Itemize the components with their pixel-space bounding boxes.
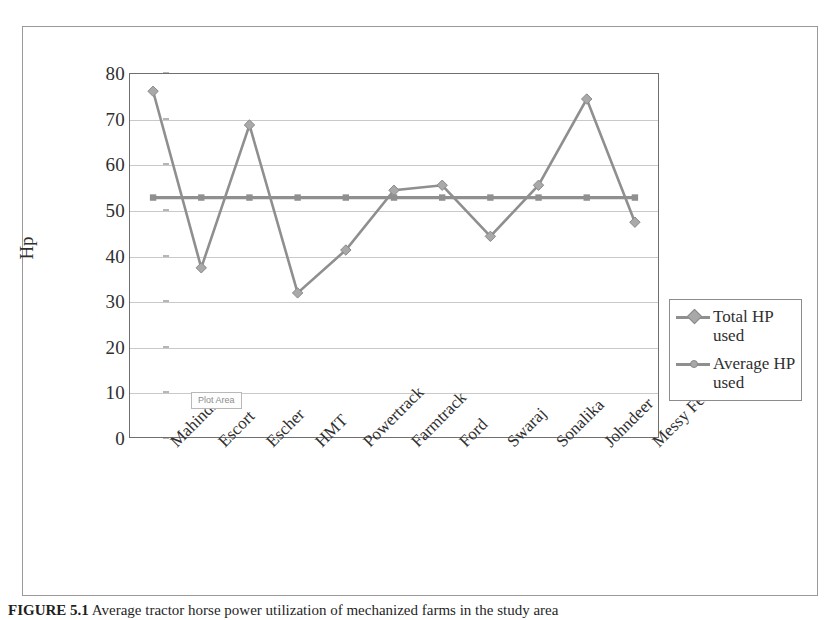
x-axis-tick-label: Powertrack: [360, 438, 372, 450]
legend-label: Total HP used: [713, 307, 795, 345]
data-point-marker: [246, 194, 252, 200]
y-axis-tick-label: 10: [105, 383, 125, 402]
x-axis-tick-label: Farmtrack: [408, 438, 420, 450]
series-layer: [129, 73, 659, 438]
legend-entry[interactable]: Total HP used: [676, 307, 795, 345]
y-axis-tick-label: 60: [105, 155, 125, 174]
square-marker: [676, 354, 710, 372]
y-axis-tick-labels: 01020304050607080: [63, 73, 125, 438]
plot-area-tooltip: Plot Area: [191, 392, 242, 409]
chart-legend: Total HP usedAverage HP used: [669, 299, 802, 401]
data-point-marker: [584, 194, 590, 200]
y-axis-title: Hp: [16, 236, 38, 259]
y-axis-tick-label: 20: [105, 337, 125, 356]
y-axis-tick-label: 50: [105, 200, 125, 219]
data-point-marker: [439, 194, 445, 200]
y-axis-tick-label: 30: [105, 292, 125, 311]
legend-entry[interactable]: Average HP used: [676, 354, 795, 392]
y-axis-tick-label: 80: [105, 64, 125, 83]
x-axis-tick-label: Escher: [263, 438, 275, 450]
x-axis-tick-label: HMT: [312, 438, 324, 450]
y-axis-tick-label: 40: [105, 246, 125, 265]
x-axis-tick-label: Sonalika: [553, 438, 565, 450]
x-axis-tick-label: Johndeer: [601, 438, 613, 450]
figure-caption-label: FIGURE 5.1: [8, 602, 89, 618]
data-point-marker: [198, 194, 204, 200]
y-axis-tick-label: 0: [115, 429, 125, 448]
data-point-marker: [632, 194, 638, 200]
data-point-marker: [244, 120, 254, 130]
x-axis-tick-label: Messy Ferguson: [649, 438, 661, 450]
figure-caption-text: Average tractor horse power utilization …: [92, 602, 559, 618]
data-point-marker: [535, 194, 541, 200]
figure-frame: Hp 01020304050607080 MahindraEscortEsche…: [22, 26, 818, 596]
legend-label: Average HP used: [713, 354, 795, 392]
x-axis-tick-labels: MahindraEscortEscherHMTPowertrackFarmtra…: [129, 438, 659, 588]
x-axis-tick-label: Mahindra: [167, 438, 179, 450]
data-point-marker: [582, 94, 592, 104]
data-point-marker: [196, 263, 206, 273]
figure-caption: FIGURE 5.1 Average tractor horse power u…: [8, 602, 832, 619]
x-axis-tick-label: Swaraj: [504, 438, 516, 450]
y-axis-tick-label: 70: [105, 109, 125, 128]
data-point-marker: [150, 194, 156, 200]
data-point-marker: [294, 194, 300, 200]
diamond-marker: [676, 307, 710, 325]
data-point-marker: [487, 194, 493, 200]
data-point-marker: [148, 86, 158, 96]
data-point-marker: [630, 217, 640, 227]
x-axis-tick-label: Ford: [456, 438, 468, 450]
data-point-marker: [343, 194, 349, 200]
data-point-marker: [391, 194, 397, 200]
x-axis-tick-label: Escort: [215, 438, 227, 450]
chart-area: Hp 01020304050607080 MahindraEscortEsche…: [23, 27, 819, 597]
